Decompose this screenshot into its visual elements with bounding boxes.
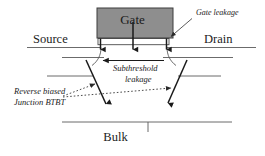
reverse-biased-label: Reverse biased (14, 87, 65, 96)
subthreshold-leakage-label: leakage (125, 75, 151, 84)
bulk-label: Bulk (0, 131, 265, 145)
bulk-label-text: Bulk (103, 131, 127, 145)
junction-curve-right (167, 48, 176, 66)
junction-btbt-label: Junction BTBT (14, 98, 65, 107)
btbt-leader-right (63, 88, 171, 97)
gate-leakage-label: Gate leakage (196, 9, 238, 18)
gate-label-text: Gate (120, 13, 145, 27)
junction-curve-left (92, 48, 101, 66)
drain-label: Drain (204, 33, 232, 47)
btbt-arrow-right (168, 60, 187, 103)
btbt-leader-lines (63, 84, 171, 97)
btbt-leader-left (63, 84, 95, 96)
btbt-arrow-left (86, 60, 106, 104)
source-label: Source (33, 33, 68, 47)
subthreshold-label: Subthreshold (113, 64, 158, 73)
figure-mosfet-leakage: Gate Source Drain Gate leakage Subthresh… (0, 0, 265, 156)
